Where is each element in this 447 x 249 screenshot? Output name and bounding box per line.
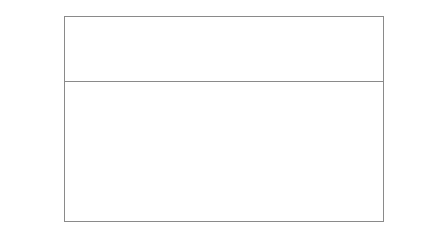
poverty-plot-area [64, 81, 384, 222]
right-axis-ticks [390, 0, 414, 249]
left-axis-title [14, 78, 34, 228]
right-axis-title [420, 12, 440, 112]
transfer-plot-area [64, 16, 384, 81]
chart-figure [0, 0, 447, 249]
left-axis-ticks [44, 0, 62, 249]
chart-legend [64, 228, 384, 244]
